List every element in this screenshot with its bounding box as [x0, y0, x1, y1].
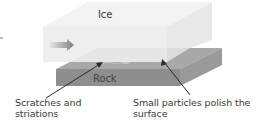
scratches-label-line2: striations — [15, 108, 81, 119]
ice-label: Ice — [98, 9, 112, 20]
rock-label: Rock — [93, 73, 117, 84]
particles-label-line1: Small particles polish the — [133, 97, 250, 108]
rock-front-face — [56, 69, 180, 86]
scratches-label-line1: Scratches and — [15, 97, 81, 108]
particles-label-line2: surface — [133, 108, 250, 119]
scratches-label: Scratches and striations — [15, 97, 81, 119]
particles-label: Small particles polish the surface — [133, 97, 250, 119]
